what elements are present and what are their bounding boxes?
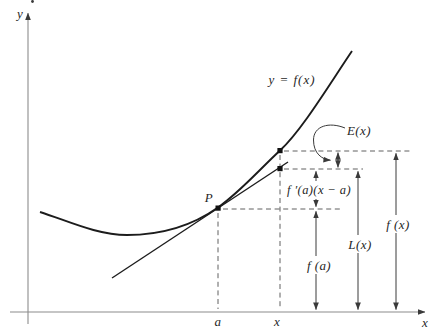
axes	[10, 13, 425, 324]
dashed-guides	[218, 151, 412, 309]
point-p-dot	[216, 206, 221, 211]
linear-approximation-figure: y x y = f(x) P E(x) f ′(a)(x − a) f (a) …	[0, 0, 435, 336]
point-tangent-at-x-dot	[277, 166, 282, 171]
fa-label: f (a)	[307, 259, 331, 272]
x-axis-label: x	[422, 316, 428, 329]
fx-label: f (x)	[386, 218, 409, 231]
curve-label: y = f(x)	[268, 73, 315, 86]
figure-canvas	[0, 0, 435, 336]
point-curve-at-x-dot	[277, 148, 282, 153]
tangent-line	[112, 162, 288, 278]
y-axis-label: y	[17, 7, 23, 20]
measure-arrows	[314, 125, 397, 310]
tick-a-label: a	[215, 315, 222, 328]
tick-x-label: x	[274, 315, 280, 328]
point-p-label: P	[205, 191, 213, 204]
error-label: E(x)	[347, 124, 371, 137]
print-artifact-dot	[31, 0, 34, 3]
tangent-rise-label: f ′(a)(x − a)	[287, 184, 351, 197]
error-leader-arrow	[314, 125, 346, 160]
lx-label: L(x)	[348, 238, 371, 251]
